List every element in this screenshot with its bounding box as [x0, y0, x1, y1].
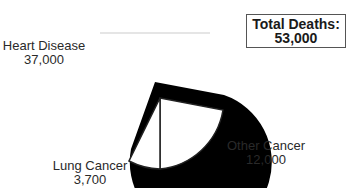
label-other-cancer-value: 12,000: [222, 153, 310, 167]
total-deaths-box: Total Deaths: 53,000: [246, 14, 346, 48]
label-other-cancer-name: Other Cancer: [222, 139, 310, 153]
total-deaths-value: 53,000: [247, 31, 345, 45]
label-heart-disease-value: 37,000: [2, 53, 86, 67]
label-heart-disease-name: Heart Disease: [2, 39, 86, 53]
slice-lung-cancer: [129, 98, 160, 169]
label-other-cancer: Other Cancer 12,000: [222, 139, 310, 167]
label-heart-disease: Heart Disease 37,000: [2, 39, 86, 67]
label-lung-cancer-value: 3,700: [50, 173, 130, 187]
label-lung-cancer-name: Lung Cancer: [50, 159, 130, 173]
label-lung-cancer: Lung Cancer 3,700: [50, 159, 130, 187]
total-deaths-label: Total Deaths:: [247, 17, 345, 31]
